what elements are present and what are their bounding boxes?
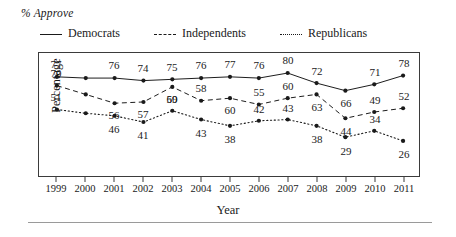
- point-value-label: 70: [51, 68, 62, 79]
- point-value-label: 34: [370, 114, 381, 125]
- point-value-label: 76: [196, 60, 207, 71]
- legend-line-dotted-icon: [280, 30, 302, 38]
- x-tick-label: 2002: [133, 183, 154, 194]
- x-tick-label: 2006: [249, 183, 270, 194]
- point-value-label: 43: [196, 127, 207, 138]
- x-tick-label: 2004: [191, 183, 212, 194]
- x-tick-label: 2007: [278, 183, 299, 194]
- chart-title: % Approve: [21, 7, 74, 19]
- x-tick: [56, 177, 57, 182]
- legend-label-republicans: Republicans: [308, 26, 367, 41]
- x-tick: [317, 177, 318, 182]
- x-tick: [259, 177, 260, 182]
- point-value-label: 56: [109, 110, 120, 121]
- point-value-label: 60: [225, 104, 236, 115]
- legend-line-dashed-icon: [154, 30, 176, 38]
- point-value-label: 41: [138, 130, 149, 141]
- point-value-label: 42: [254, 103, 265, 114]
- legend-label-independents: Independents: [182, 26, 246, 41]
- point-value-label: 72: [312, 65, 323, 76]
- point-value-label: 71: [370, 66, 381, 77]
- point-value-label: 76: [109, 60, 120, 71]
- x-tick: [288, 177, 289, 182]
- x-tick: [114, 177, 115, 182]
- point-value-label: 38: [225, 134, 236, 145]
- x-tick-label: 2000: [75, 183, 96, 194]
- point-value-label: 38: [312, 134, 323, 145]
- x-tick-label: 2009: [336, 183, 357, 194]
- chart-legend: Democrats Independents Republicans: [40, 26, 367, 41]
- x-tick: [375, 177, 376, 182]
- point-value-label: 51: [51, 92, 62, 103]
- x-tick-label: 2011: [394, 183, 415, 194]
- point-value-label: 55: [254, 87, 265, 98]
- point-value-label: 50: [167, 93, 178, 104]
- point-value-label: 49: [370, 94, 381, 105]
- point-value-label: 75: [167, 61, 178, 72]
- x-tick-label: 2010: [365, 183, 386, 194]
- point-value-label: 60: [283, 80, 294, 91]
- footer-divider: [28, 222, 432, 223]
- point-value-label: 74: [138, 63, 149, 74]
- x-tick: [143, 177, 144, 182]
- point-value-label: 63: [312, 102, 323, 113]
- point-value-label: 26: [399, 149, 410, 160]
- x-tick-label: 2001: [104, 183, 125, 194]
- point-value-label: 57: [138, 108, 149, 119]
- approval-line-chart: % Approve Democrats Independents Republi…: [0, 0, 456, 237]
- legend-label-democrats: Democrats: [68, 26, 120, 41]
- point-value-label: 76: [254, 60, 265, 71]
- point-value-label: 80: [283, 55, 294, 66]
- legend-item-independents: Independents: [154, 26, 246, 41]
- x-tick: [346, 177, 347, 182]
- x-tick: [201, 177, 202, 182]
- point-value-label: 58: [196, 83, 207, 94]
- x-tick: [172, 177, 173, 182]
- point-value-label: 77: [225, 59, 236, 70]
- point-value-label: 66: [341, 98, 352, 109]
- x-tick-label: 2008: [307, 183, 328, 194]
- legend-item-republicans: Republicans: [280, 26, 367, 41]
- point-value-label: 43: [283, 102, 294, 113]
- x-tick: [404, 177, 405, 182]
- point-value-label: 29: [341, 145, 352, 156]
- x-tick-label: 1999: [46, 183, 67, 194]
- data-point-labels: 7776747576777680726671787056576958605560…: [38, 52, 420, 177]
- x-tick: [230, 177, 231, 182]
- point-value-label: 78: [399, 57, 410, 68]
- x-axis-tick-labels: 1999200020012002200320042005200620072008…: [38, 183, 420, 197]
- x-tick: [85, 177, 86, 182]
- point-value-label: 52: [399, 91, 410, 102]
- x-axis-title: Year: [0, 203, 456, 218]
- x-tick-label: 2003: [162, 183, 183, 194]
- point-value-label: 44: [341, 126, 352, 137]
- x-tick-label: 2005: [220, 183, 241, 194]
- point-value-label: 46: [109, 123, 120, 134]
